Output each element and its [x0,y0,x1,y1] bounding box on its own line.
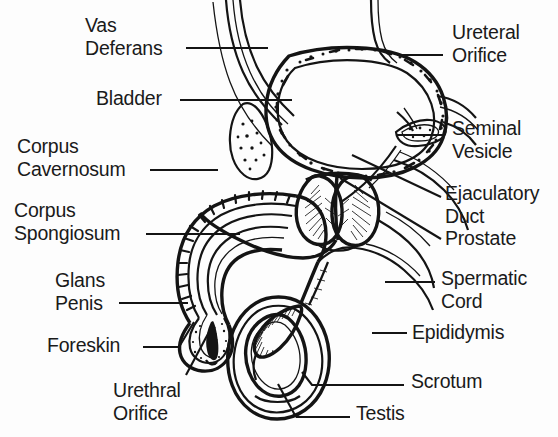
label-prostate: Prostate [445,227,516,250]
label-ejaculatory-duct: Ejaculatory Duct [445,182,539,228]
anatomical-diagram: Vas Deferans Bladder Corpus Cavernosum C… [0,0,558,437]
label-bladder: Bladder [96,87,162,110]
label-seminal-vesicle: Seminal Vesicle [452,117,521,163]
label-scrotum: Scrotum [411,370,482,393]
label-vas-deferans: Vas Deferans [85,14,163,60]
epididymis [254,306,302,380]
label-spermatic-cord: Spermatic Cord [441,267,527,313]
label-testis: Testis [356,402,405,425]
label-corpus-spongiosum: Corpus Spongiosum [14,199,120,245]
leader-prostate [340,178,441,239]
bladder-shape [266,47,447,178]
label-ureteral-orifice: Ureteral Orifice [452,21,520,67]
urethra [200,213,336,258]
label-foreskin: Foreskin [47,334,120,357]
seminal-vesicle [396,108,446,146]
label-glans-penis: Glans Penis [55,269,105,315]
label-corpus-cavernosum: Corpus Cavernosum [17,135,126,181]
label-epididymis: Epididymis [412,321,504,344]
glans-penis [180,315,233,371]
prostate-gland [296,173,379,250]
label-urethral-orifice: Urethral Orifice [113,379,181,425]
vas-deferens-tubes [213,0,397,146]
